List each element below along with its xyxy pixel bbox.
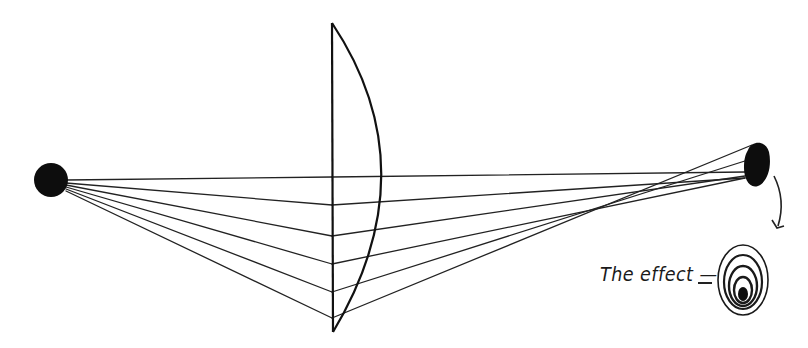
effect-caption: The effect — — [600, 262, 717, 286]
effect-rings-icon — [718, 245, 768, 315]
arrow-icon — [774, 176, 781, 226]
distorted-image-icon — [744, 143, 770, 187]
light-source-icon — [34, 163, 68, 197]
optics-diagram — [0, 0, 808, 348]
light-rays — [66, 145, 752, 318]
